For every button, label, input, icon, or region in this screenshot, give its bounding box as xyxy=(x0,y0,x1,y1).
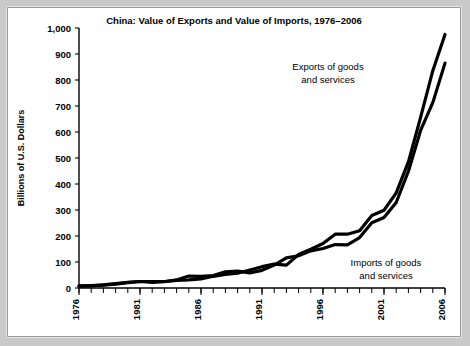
x-tick-label: 1996 xyxy=(314,299,325,320)
x-axis-minor-ticks xyxy=(79,288,445,293)
y-tick-label: 0 xyxy=(66,283,71,294)
chart-title: China: Value of Exports and Value of Imp… xyxy=(106,15,362,26)
series-lines xyxy=(79,35,445,287)
chart-figure: China: Value of Exports and Value of Imp… xyxy=(7,7,461,337)
y-tick-label: 100 xyxy=(55,257,71,268)
imports-annotation-line2: and services xyxy=(359,270,413,281)
x-tick-label: 2006 xyxy=(436,299,447,320)
x-axis-ticks: 1976198119861991199620012006 xyxy=(70,288,447,320)
y-tick-label: 1,000 xyxy=(47,23,71,34)
y-tick-label: 500 xyxy=(55,153,71,164)
y-tick-label: 700 xyxy=(55,101,71,112)
series-line xyxy=(79,63,445,286)
y-tick-label: 400 xyxy=(55,179,71,190)
x-tick-label: 2001 xyxy=(375,298,386,320)
y-tick-label: 300 xyxy=(55,205,71,216)
y-tick-label: 600 xyxy=(55,127,71,138)
exports-annotation-line1: Exports of goods xyxy=(292,61,364,72)
y-tick-label: 200 xyxy=(55,231,71,242)
x-tick-label: 1986 xyxy=(192,299,203,320)
y-tick-label: 800 xyxy=(55,75,71,86)
y-tick-label: 900 xyxy=(55,49,71,60)
imports-annotation-line1: Imports of goods xyxy=(351,257,422,268)
exports-annotation-line2: and services xyxy=(301,74,355,85)
x-tick-label: 1981 xyxy=(131,298,142,320)
exports-annotation: Exports of goods and services xyxy=(292,61,364,85)
series-line xyxy=(79,35,445,286)
x-tick-label: 1991 xyxy=(253,298,264,320)
imports-annotation: Imports of goods and services xyxy=(351,257,422,281)
y-axis-ticks: 01002003004005006007008009001,000 xyxy=(47,23,79,294)
x-tick-label: 1976 xyxy=(70,299,81,320)
line-chart: China: Value of Exports and Value of Imp… xyxy=(8,8,460,336)
y-axis-title: Billions of U.S. Dollars xyxy=(16,110,26,207)
